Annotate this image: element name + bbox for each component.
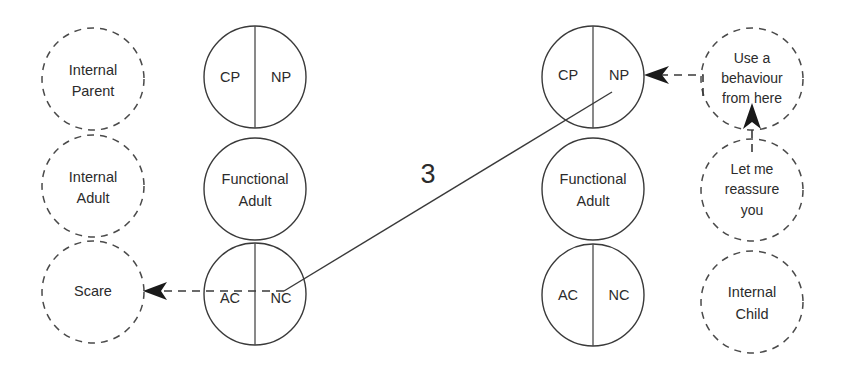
internal-child-label-line2: Child xyxy=(735,306,768,322)
left-functional-adult-label-line2: Adult xyxy=(238,193,271,209)
right-cp-label: CP xyxy=(558,67,578,83)
right-internal-adult-node: Let me reassure you xyxy=(701,139,803,241)
let-me-reassure-label-line2: reassure xyxy=(725,181,780,197)
right-ac-label: AC xyxy=(558,287,578,303)
left-functional-adult-label-line1: Functional xyxy=(222,171,289,187)
transaction-3-number: 3 xyxy=(420,159,435,189)
use-behaviour-arrow xyxy=(644,66,703,96)
left-internal-child-node: Scare xyxy=(42,241,144,343)
left-adult-circle xyxy=(204,138,306,240)
right-np-label: NP xyxy=(609,67,629,83)
use-a-behaviour-label-line1: Use a xyxy=(734,50,771,66)
right-nc-label: NC xyxy=(609,287,630,303)
left-functional-parent-node: CP NP xyxy=(204,26,306,128)
use-a-behaviour-label-line2: behaviour xyxy=(721,70,783,86)
left-internal-adult-node: Internal Adult xyxy=(42,135,144,237)
transaction-3-line xyxy=(284,92,612,291)
right-functional-child-node: AC NC xyxy=(542,244,644,346)
left-functional-adult-node: Functional Adult xyxy=(204,138,306,240)
internal-adult-label-line2: Adult xyxy=(76,190,109,206)
ego-state-diagram: Internal Parent Internal Adult Scare CP … xyxy=(0,0,842,369)
internal-adult-label-line1: Internal xyxy=(69,169,117,185)
let-me-reassure-label-line3: you xyxy=(741,202,764,218)
left-cp-label: CP xyxy=(220,69,240,85)
transaction-arrow-3: 3 xyxy=(284,92,612,291)
scare-label: Scare xyxy=(74,283,112,299)
right-adult-circle xyxy=(542,138,644,240)
left-ac-label: AC xyxy=(220,290,240,306)
scare-arrow xyxy=(143,282,284,300)
left-nc-label: NC xyxy=(271,290,292,306)
right-functional-adult-node: Functional Adult xyxy=(542,138,644,240)
right-functional-adult-label-line1: Functional xyxy=(560,171,627,187)
scare-arrow-head xyxy=(143,282,167,300)
internal-parent-label-line2: Parent xyxy=(72,83,115,99)
reassure-arrow xyxy=(743,103,761,152)
use-behaviour-arrow-line xyxy=(662,75,703,96)
internal-child-circle xyxy=(701,251,803,353)
left-internal-parent-node: Internal Parent xyxy=(42,28,144,130)
internal-parent-label-line1: Internal xyxy=(69,62,117,78)
let-me-reassure-label-line1: Let me xyxy=(731,161,774,177)
internal-adult-circle xyxy=(42,135,144,237)
internal-parent-circle xyxy=(42,28,144,130)
right-functional-adult-label-line2: Adult xyxy=(576,193,609,209)
internal-child-label-line1: Internal xyxy=(728,284,776,300)
left-np-label: NP xyxy=(271,69,291,85)
left-functional-child-node: AC NC xyxy=(204,243,306,345)
right-internal-child-node: Internal Child xyxy=(701,251,803,353)
diagram-canvas: Internal Parent Internal Adult Scare CP … xyxy=(0,0,842,369)
reassure-arrow-head xyxy=(743,103,761,129)
right-functional-parent-node: CP NP xyxy=(542,26,644,128)
